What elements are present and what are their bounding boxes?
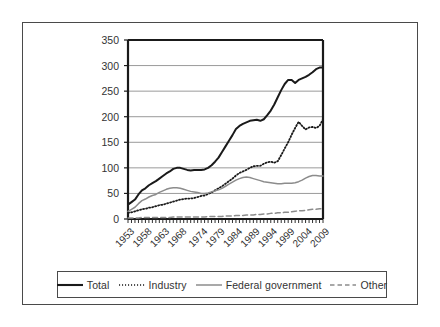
x-axis-tick-label: 1968	[165, 225, 189, 249]
series-line-industry	[128, 119, 323, 213]
y-axis-tick-label: 350	[101, 34, 119, 46]
y-axis-tick-label: 0	[113, 213, 119, 225]
legend-label: Total	[87, 279, 110, 291]
y-axis-tick-label: 50	[107, 187, 119, 199]
legend-swatch-federal-government	[196, 280, 222, 290]
series-line-other	[128, 209, 323, 218]
legend-label: Industry	[149, 279, 187, 291]
legend-item-industry[interactable]: Industry	[119, 279, 187, 291]
legend-item-total[interactable]: Total	[57, 279, 110, 291]
legend-item-other[interactable]: Other	[330, 279, 387, 291]
legend-swatch-other	[330, 280, 356, 290]
figure-container: 0501001502002503003501953195819631968197…	[0, 0, 440, 327]
legend-label: Federal government	[226, 279, 322, 291]
x-axis-tick-label: 2009	[308, 225, 332, 249]
y-axis-tick-label: 300	[101, 60, 119, 72]
legend-label: Other	[360, 279, 387, 291]
chart-legend: TotalIndustryFederal governmentOther	[57, 271, 387, 298]
y-axis-tick-label: 250	[101, 85, 119, 97]
legend-swatch-industry	[119, 280, 145, 290]
legend-swatch-total	[57, 280, 83, 290]
y-axis-tick-label: 100	[101, 162, 119, 174]
legend-item-federal-government[interactable]: Federal government	[196, 279, 322, 291]
y-axis-tick-label: 150	[101, 136, 119, 148]
y-axis-tick-label: 200	[101, 111, 119, 123]
